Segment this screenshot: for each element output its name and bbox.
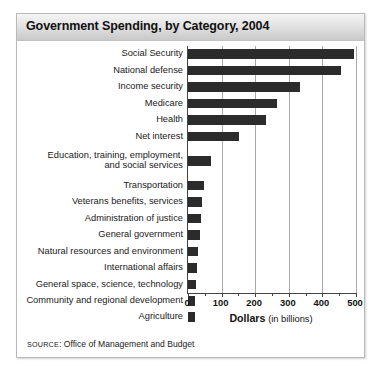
bar-series	[188, 46, 356, 293]
plot-area	[187, 46, 356, 294]
category-label-text: General government	[98, 230, 183, 240]
category-label-text: Net interest	[135, 132, 183, 142]
bar-row	[188, 194, 356, 210]
source-value: Office of Management and Budget	[64, 339, 195, 349]
category-label-text: Community and regional development	[26, 296, 183, 306]
bar	[188, 99, 277, 109]
bar	[188, 115, 266, 125]
bar-row	[188, 178, 356, 194]
source-label: SOURCE	[27, 340, 59, 349]
plot-wrapper: Social SecurityNational defenseIncome se…	[17, 42, 366, 358]
category-label: International affairs	[17, 260, 187, 276]
bar-row	[188, 46, 356, 62]
x-axis-title: Dollars (in billions)	[187, 312, 355, 324]
category-label: Agriculture	[17, 309, 187, 325]
bar	[188, 156, 211, 166]
category-label: Social Security	[17, 46, 187, 62]
chart-title-bar: Government Spending, by Category, 2004	[17, 14, 364, 41]
category-label: Income security	[17, 79, 187, 95]
category-label: Health	[17, 112, 187, 128]
x-axis-title-sub: (in billions)	[268, 314, 312, 324]
bar-row	[188, 79, 356, 95]
category-label: General space, science, technology	[17, 276, 187, 292]
bar-row	[188, 62, 356, 78]
bar-row	[188, 112, 356, 128]
bar	[188, 280, 196, 290]
x-axis-tick-label: 200	[246, 297, 262, 308]
category-label-text: Natural resources and environment	[38, 247, 183, 257]
chart-figure: Government Spending, by Category, 2004 S…	[16, 13, 365, 358]
category-label-text: Education, training, employment, and soc…	[48, 151, 183, 170]
page-title: Government Spending, by Category, 2004	[26, 19, 269, 33]
x-axis-tick-labels: 0100200300400500	[187, 297, 355, 311]
bar-row	[188, 210, 356, 226]
bar	[188, 132, 239, 142]
category-label-text: Social Security	[122, 49, 184, 59]
category-label-text: National defense	[113, 66, 183, 76]
bar	[188, 66, 341, 76]
x-axis-tick-label: 100	[213, 297, 229, 308]
x-axis-tick-label: 500	[347, 297, 363, 308]
category-label-text: Administration of justice	[85, 214, 183, 224]
bar	[188, 247, 198, 257]
category-label: General government	[17, 227, 187, 243]
bar-row	[188, 227, 356, 243]
bar	[188, 181, 204, 191]
category-label-text: International affairs	[104, 263, 183, 273]
bar-row	[188, 276, 356, 292]
category-label: Medicare	[17, 95, 187, 111]
category-label-text: Veterans benefits, services	[72, 197, 183, 207]
x-axis-tick-label: 300	[280, 297, 296, 308]
category-label-text: Agriculture	[139, 312, 183, 322]
bar-row	[188, 145, 356, 178]
category-label: Education, training, employment, and soc…	[17, 145, 187, 178]
category-label-text: General space, science, technology	[36, 280, 183, 290]
category-axis-labels: Social SecurityNational defenseIncome se…	[17, 46, 187, 325]
bar-row	[188, 260, 356, 276]
category-label: National defense	[17, 62, 187, 78]
category-label: Transportation	[17, 178, 187, 194]
bar	[188, 82, 300, 92]
category-label: Natural resources and environment	[17, 243, 187, 259]
bar	[188, 230, 200, 240]
bar	[188, 49, 354, 59]
bar-row	[188, 243, 356, 259]
category-label: Net interest	[17, 128, 187, 144]
source-note: SOURCE: Office of Management and Budget	[27, 339, 194, 349]
gridline	[356, 46, 357, 293]
x-axis-tick-label: 0	[184, 297, 189, 308]
category-label-text: Transportation	[123, 181, 183, 191]
x-axis-title-main: Dollars	[229, 312, 265, 324]
category-label: Veterans benefits, services	[17, 194, 187, 210]
bar-row	[188, 95, 356, 111]
bar	[188, 197, 202, 207]
bar-row	[188, 128, 356, 144]
category-label: Administration of justice	[17, 210, 187, 226]
category-label-text: Income security	[118, 82, 183, 92]
category-label: Community and regional development	[17, 293, 187, 309]
category-label-text: Health	[156, 115, 183, 125]
bar	[188, 214, 201, 224]
x-axis-tick-label: 400	[314, 297, 330, 308]
bar	[188, 263, 197, 273]
category-label-text: Medicare	[145, 99, 183, 109]
